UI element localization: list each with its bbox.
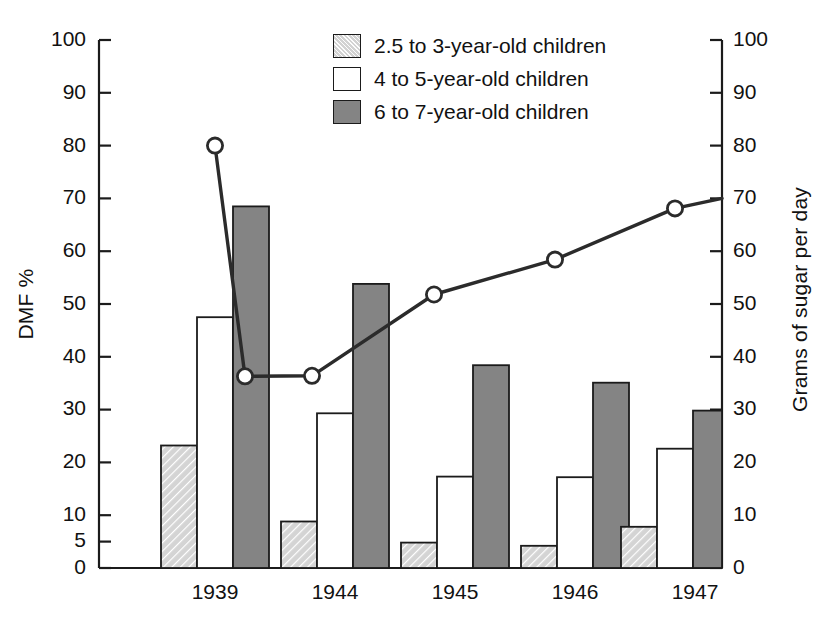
bar-1946-age4to5 bbox=[557, 477, 593, 568]
bar-1939-age6to7 bbox=[233, 206, 269, 568]
left-axis-ticks bbox=[99, 40, 111, 568]
right-tick-label-0: 0 bbox=[733, 555, 789, 579]
bar-1945-age4to5 bbox=[437, 477, 473, 568]
bar-group-1939 bbox=[161, 206, 269, 568]
x-tick-label-1945: 1945 bbox=[400, 580, 510, 604]
bar-1945-age6to7 bbox=[473, 365, 509, 568]
bar-1944-age4to5 bbox=[317, 413, 353, 568]
legend-item-age6to7: 6 to 7-year-old children bbox=[333, 99, 606, 125]
sugar-marker-1939 bbox=[207, 138, 222, 153]
legend-label-age2.5to3: 2.5 to 3-year-old children bbox=[374, 34, 606, 58]
bar-group-1944 bbox=[281, 284, 389, 568]
bar-1944-age2.5to3 bbox=[281, 522, 317, 569]
left-tick-label-80: 80 bbox=[30, 133, 86, 157]
left-tick-label-90: 90 bbox=[30, 80, 86, 104]
bar-group-1945 bbox=[401, 365, 509, 568]
bar-1939-age4to5 bbox=[197, 317, 233, 568]
right-tick-label-60: 60 bbox=[733, 238, 789, 262]
x-tick-label-1944: 1944 bbox=[280, 580, 390, 604]
light-hatched-swatch-icon bbox=[333, 34, 361, 58]
bar-group-1947 bbox=[621, 411, 722, 568]
sugar-marker-1946 bbox=[547, 252, 562, 267]
sugar-marker-1947 bbox=[667, 201, 682, 216]
legend-item-age4to5: 4 to 5-year-old children bbox=[333, 66, 606, 92]
x-tick-label-1947: 1947 bbox=[640, 580, 750, 604]
left-tick-label-5: 5 bbox=[30, 528, 86, 552]
left-axis-title: DMF % bbox=[14, 234, 38, 374]
right-tick-label-40: 40 bbox=[733, 344, 789, 368]
right-tick-label-10: 10 bbox=[733, 502, 789, 526]
chart-legend: 2.5 to 3-year-old children 4 to 5-year-o… bbox=[333, 33, 606, 125]
x-tick-label-1939: 1939 bbox=[160, 580, 270, 604]
bar-1947-age4to5 bbox=[657, 449, 693, 568]
left-tick-label-10: 10 bbox=[30, 502, 86, 526]
legend-item-age2.5to3: 2.5 to 3-year-old children bbox=[333, 33, 606, 59]
left-tick-label-100: 100 bbox=[30, 27, 86, 51]
sugar-marker-1945 bbox=[426, 287, 441, 302]
right-axis-title: Grams of sugar per day bbox=[788, 192, 812, 412]
sugar-line-series bbox=[207, 138, 722, 384]
right-tick-label-100: 100 bbox=[733, 27, 789, 51]
right-tick-label-90: 90 bbox=[733, 80, 789, 104]
dark-gray-swatch-icon bbox=[333, 100, 361, 124]
chart-figure: 100 90 80 70 60 50 40 30 20 10 5 0 100 9… bbox=[0, 0, 822, 633]
right-tick-label-30: 30 bbox=[733, 396, 789, 420]
sugar-marker-1944 bbox=[304, 368, 319, 383]
left-tick-label-20: 20 bbox=[30, 449, 86, 473]
bar-1947-age6to7 bbox=[693, 411, 722, 568]
right-tick-label-80: 80 bbox=[733, 133, 789, 157]
white-swatch-icon bbox=[333, 67, 361, 91]
right-tick-label-50: 50 bbox=[733, 291, 789, 315]
bar-1946-age2.5to3 bbox=[521, 546, 557, 568]
legend-label-age4to5: 4 to 5-year-old children bbox=[374, 67, 589, 91]
right-tick-label-20: 20 bbox=[733, 449, 789, 473]
sugar-marker-1941 bbox=[237, 369, 252, 384]
sugar-line-path bbox=[215, 146, 722, 377]
left-tick-label-50: 50 bbox=[30, 291, 86, 315]
legend-label-age6to7: 6 to 7-year-old children bbox=[374, 100, 589, 124]
bar-1939-age2.5to3 bbox=[161, 446, 197, 569]
bar-1947-age2.5to3 bbox=[621, 527, 657, 568]
left-tick-label-30: 30 bbox=[30, 396, 86, 420]
left-tick-label-60: 60 bbox=[30, 238, 86, 262]
bar-group-1946 bbox=[521, 383, 629, 568]
x-tick-label-1946: 1946 bbox=[520, 580, 630, 604]
left-tick-label-40: 40 bbox=[30, 344, 86, 368]
bar-1945-age2.5to3 bbox=[401, 543, 437, 568]
right-tick-label-70: 70 bbox=[733, 185, 789, 209]
left-tick-label-70: 70 bbox=[30, 185, 86, 209]
left-tick-label-0: 0 bbox=[30, 555, 86, 579]
